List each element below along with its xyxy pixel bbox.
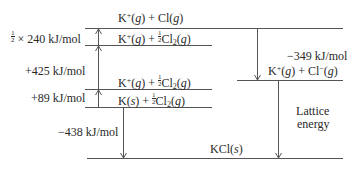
level-label-k-s-half-cl2: K(s) + 12Cl2(g) <box>118 92 185 108</box>
energy-label-sublimation: +89 kJ/mol <box>31 92 85 105</box>
energy-label-electron-affinity: −349 kJ/mol <box>287 50 347 63</box>
level-label-k-plus-half-cl2-upper: K+(g) + 12Cl2(g) <box>118 30 191 46</box>
energy-label-formation: −438 kJ/mol <box>58 126 118 139</box>
level-label-kcl-s: KCl(s) <box>210 143 243 156</box>
energy-label-ionization: +425 kJ/mol <box>25 65 85 78</box>
level-label-k-plus-cl-g: K+(g) + Cl(g) <box>118 12 183 25</box>
level-label-k-plus-half-cl2-lower: K+(g) + 12Cl2(g) <box>118 74 191 90</box>
level-label-k-plus-cl-minus-g: K+(g) + Cl−(g) <box>268 65 338 78</box>
energy-label-bond-dissociation: 12 × 240 kJ/mol <box>11 30 81 46</box>
energy-label-lattice: Lattice energy <box>296 105 329 131</box>
